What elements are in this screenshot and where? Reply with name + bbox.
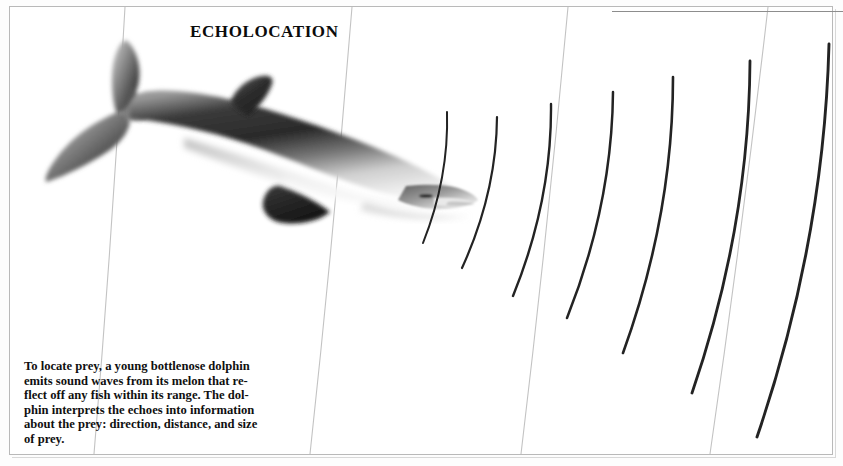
sound-wave-arc [692, 61, 750, 393]
sound-wave-arc [623, 77, 673, 353]
caption-line: To locate prey, a young bottlenose dolph… [24, 359, 290, 374]
caption-line: flect off any fish within its range. The… [24, 388, 290, 403]
caption-line: of prey. [24, 432, 290, 447]
sound-wave-arc [567, 92, 613, 318]
echolocation-plate: ECHOLOCATION To locate prey, a young bot… [0, 0, 843, 466]
sound-wave-arc [423, 112, 447, 243]
top-rule [612, 11, 843, 12]
sound-wave-arc [513, 104, 551, 296]
caption-line: about the prey: direction, distance, and… [24, 417, 290, 432]
page-title: ECHOLOCATION [190, 22, 339, 42]
sound-wave-arc [757, 44, 829, 437]
sound-wave-arc [462, 117, 497, 268]
caption-line: phin interprets the echoes into informat… [24, 403, 290, 418]
caption-line: emits sound waves from its melon that re… [24, 374, 290, 389]
caption-text: To locate prey, a young bottlenose dolph… [24, 359, 290, 447]
